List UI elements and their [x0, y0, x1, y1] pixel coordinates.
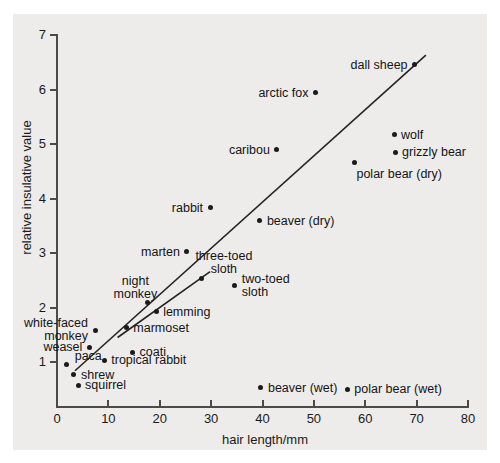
x-tick-label: 60: [350, 412, 380, 425]
scatter-point: [130, 350, 135, 355]
y-tick-mark: [50, 252, 57, 254]
scatter-point: [102, 358, 107, 363]
x-axis-title: hair length/mm: [180, 432, 350, 447]
x-tick-label: 20: [145, 412, 175, 425]
y-tick-label: 2: [20, 301, 46, 314]
scatter-point: [208, 205, 213, 210]
x-tick-mark: [467, 400, 469, 407]
point-label: coati: [140, 346, 166, 359]
scatter-point: [352, 160, 357, 165]
point-label: rabbit: [172, 201, 203, 214]
scatter-point: [64, 362, 69, 367]
x-tick-mark: [416, 400, 418, 407]
x-tick-mark: [313, 400, 315, 407]
point-label: white-faced monkey: [24, 317, 88, 343]
x-tick-label: 10: [93, 412, 123, 425]
y-tick-mark: [50, 89, 57, 91]
y-tick-mark: [50, 34, 57, 36]
x-tick-mark: [364, 400, 366, 407]
point-label: beaver (dry): [267, 214, 334, 227]
y-tick-label: 1: [20, 355, 46, 368]
scatter-point: [124, 325, 129, 330]
x-tick-label: 50: [299, 412, 329, 425]
scatter-point: [76, 383, 81, 388]
point-label: night monkey: [114, 275, 158, 301]
x-tick-label: 70: [402, 412, 432, 425]
x-tick-label: 30: [196, 412, 226, 425]
point-label: grizzly bear: [402, 146, 466, 159]
scatter-point: [392, 132, 397, 137]
point-label: lemming: [163, 305, 210, 318]
x-tick-mark: [159, 400, 161, 407]
point-label: caribou: [229, 143, 270, 156]
scatter-point: [345, 387, 350, 392]
scatter-point: [93, 328, 98, 333]
x-tick-label: 80: [453, 412, 483, 425]
y-axis-title: relative insulative value: [19, 88, 34, 288]
x-tick-label: 0: [42, 412, 72, 425]
y-tick-mark: [50, 198, 57, 200]
x-tick-mark: [262, 400, 264, 407]
x-tick-mark: [210, 400, 212, 407]
y-tick-mark: [50, 307, 57, 309]
figure-root: 1234567 01020304050607080 relative insul…: [0, 0, 500, 463]
y-tick-mark: [50, 361, 57, 363]
point-label: two-toed sloth: [242, 273, 290, 299]
point-label: squirrel: [85, 379, 126, 392]
point-label: beaver (wet): [268, 381, 337, 394]
y-tick-label: 7: [20, 28, 46, 41]
x-tick-mark: [56, 400, 58, 407]
scatter-point: [87, 345, 92, 350]
point-label: polar bear (wet): [354, 383, 442, 396]
point-label: marmoset: [133, 321, 189, 334]
point-label: arctic fox: [258, 86, 308, 99]
point-label: marten: [141, 245, 180, 258]
point-label: polar bear (dry): [356, 167, 441, 180]
x-tick-mark: [107, 400, 109, 407]
point-label: wolf: [401, 128, 423, 141]
x-tick-label: 40: [248, 412, 278, 425]
scatter-point: [393, 150, 398, 155]
y-tick-mark: [50, 143, 57, 145]
point-label: dall sheep: [351, 58, 408, 71]
